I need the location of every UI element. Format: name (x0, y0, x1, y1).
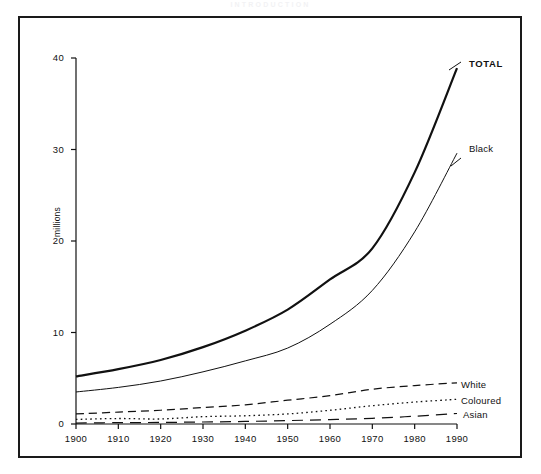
y-axis-ticks (71, 58, 76, 424)
x-axis-tick-label-1970: 1970 (352, 433, 392, 444)
series-label-white: White (461, 379, 486, 390)
series-line-black (76, 153, 457, 392)
y-axis-tick-label-30: 30 (38, 144, 64, 155)
x-axis-tick-label-1920: 1920 (141, 433, 181, 444)
x-axis-tick-label-1910: 1910 (98, 433, 138, 444)
series-line-white (76, 383, 457, 414)
y-axis-tick-label-20: 20 (38, 235, 64, 246)
x-axis-tick-label-1960: 1960 (310, 433, 350, 444)
series-paths (76, 68, 457, 423)
series-label-coloured: Coloured (461, 395, 501, 406)
series-line-asian (76, 413, 457, 423)
series-label-total: TOTAL (469, 58, 503, 69)
x-axis-tick-label-1990: 1990 (437, 433, 477, 444)
series-label-black: Black (469, 143, 493, 154)
series-line-total (76, 68, 457, 376)
leader-line-total (449, 62, 461, 70)
series-line-coloured (76, 399, 457, 419)
y-axis-tick-label-0: 0 (38, 418, 64, 429)
x-axis-tick-label-1950: 1950 (268, 433, 308, 444)
x-axis-ticks (76, 424, 457, 429)
y-axis-tick-label-40: 40 (38, 52, 64, 63)
axis-lines (76, 58, 457, 424)
x-axis-tick-label-1900: 1900 (56, 433, 96, 444)
y-axis-tick-label-10: 10 (38, 327, 64, 338)
population-line-chart (0, 0, 541, 474)
x-axis-tick-label-1930: 1930 (183, 433, 223, 444)
series-label-asian: Asian (463, 409, 488, 420)
x-axis-tick-label-1940: 1940 (225, 433, 265, 444)
label-leader-lines (449, 62, 461, 166)
x-axis-tick-label-1980: 1980 (395, 433, 435, 444)
